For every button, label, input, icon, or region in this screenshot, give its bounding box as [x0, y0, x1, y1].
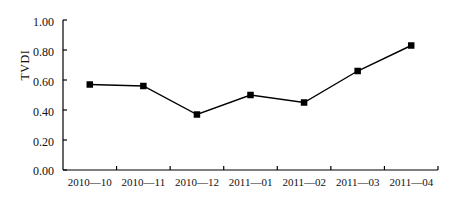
- plot-area: [0, 0, 454, 204]
- data-point-marker: [247, 92, 254, 99]
- data-point-marker: [140, 83, 147, 90]
- data-markers: [87, 42, 415, 118]
- data-point-marker: [87, 81, 94, 88]
- data-point-marker: [194, 111, 201, 118]
- tvdi-line-chart: TVDI 1.00 0.80 0.60 0.40 0.20 0.00 2010—…: [0, 0, 454, 204]
- data-point-marker: [354, 68, 361, 75]
- data-line-tvdi: [90, 46, 411, 115]
- data-point-marker: [301, 99, 308, 106]
- data-point-marker: [408, 42, 415, 49]
